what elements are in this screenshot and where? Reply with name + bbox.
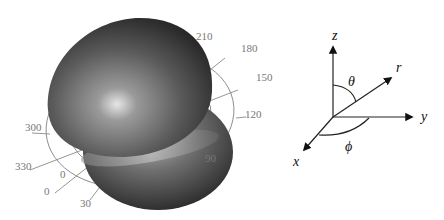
r-label: r xyxy=(396,60,402,75)
tick-150: 150 xyxy=(256,71,273,83)
tick-300: 300 xyxy=(25,121,42,133)
x-axis xyxy=(304,117,333,150)
theta-label: θ xyxy=(348,74,355,89)
tick-0-outer: 0 xyxy=(44,185,50,197)
tick-210: 210 xyxy=(196,30,213,42)
r-vector xyxy=(333,78,391,117)
z-label: z xyxy=(331,28,338,43)
phi-arc xyxy=(319,118,369,135)
tick-120: 120 xyxy=(245,108,262,120)
orbital-figure: 210 180 150 120 90 300 330 0 0 30 z y x … xyxy=(0,0,444,220)
tick-90: 90 xyxy=(205,152,217,164)
tick-330: 330 xyxy=(15,160,32,172)
x-label: x xyxy=(292,154,300,169)
y-label: y xyxy=(419,109,428,124)
tick-0-inner: 0 xyxy=(60,168,66,180)
tick-180: 180 xyxy=(241,42,258,54)
tick-30: 30 xyxy=(80,197,92,209)
phi-label: ϕ xyxy=(345,139,352,154)
